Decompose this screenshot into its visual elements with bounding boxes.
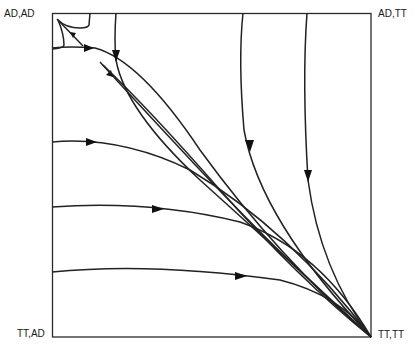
arrow-right-icon [84, 44, 94, 52]
arrow-down-icon [245, 140, 254, 152]
arrow-right-icon [86, 138, 97, 146]
trajectory-left-3 [52, 205, 371, 337]
trajectory-left-1 [52, 47, 371, 337]
separatrix-curve [53, 13, 90, 49]
phase-portrait [0, 0, 419, 350]
trajectory-to-corner [57, 19, 83, 46]
trajectory-top-1 [115, 13, 371, 337]
arrow-right-icon [152, 205, 164, 213]
trajectory-left-2 [52, 141, 371, 337]
arrow-down-icon [304, 170, 312, 182]
arrow-right-icon [235, 272, 247, 280]
